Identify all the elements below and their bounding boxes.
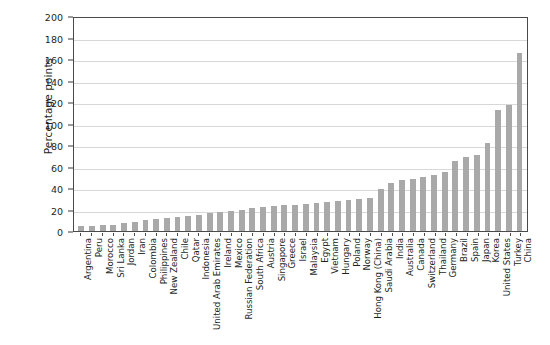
bar[interactable]: [303, 204, 309, 231]
x-tick-slot: Austria: [257, 233, 268, 343]
bar[interactable]: [378, 189, 384, 231]
bar-slot: [450, 18, 461, 231]
bar[interactable]: [217, 212, 223, 231]
bar[interactable]: [324, 202, 330, 231]
x-tick-slot: Malaysia: [300, 233, 311, 343]
bar-slot: [482, 18, 493, 231]
bar-slot: [300, 18, 311, 231]
x-tick-slot: Poland: [343, 233, 354, 343]
bar[interactable]: [506, 105, 512, 231]
bar[interactable]: [228, 211, 234, 231]
x-tick-mark: [370, 233, 371, 236]
bar-slot: [343, 18, 354, 231]
x-tick-mark: [177, 233, 178, 236]
bar-slot: [407, 18, 418, 231]
x-tick-slot: Hong Kong (China): [365, 233, 376, 343]
y-tick-label: 20: [51, 205, 63, 216]
x-tick-mark: [338, 233, 339, 236]
bar-slot: [461, 18, 472, 231]
x-tick-mark: [231, 233, 232, 236]
x-tick-slot: Colombia: [139, 233, 150, 343]
bar[interactable]: [164, 218, 170, 231]
x-tick-slot: Iran: [129, 233, 140, 343]
bar[interactable]: [78, 226, 84, 231]
bar[interactable]: [485, 143, 491, 231]
bar[interactable]: [442, 172, 448, 231]
bar-slot: [119, 18, 130, 231]
bar-slot: [247, 18, 258, 231]
x-tick-slot: Argentina: [75, 233, 86, 343]
bar[interactable]: [463, 157, 469, 231]
x-tick-mark: [198, 233, 199, 236]
bar-slot: [354, 18, 365, 231]
bar[interactable]: [110, 225, 116, 231]
x-tick-mark: [306, 233, 307, 236]
x-tick-mark: [263, 233, 264, 236]
x-tick-mark: [209, 233, 210, 236]
y-tick-label: 0: [57, 227, 63, 238]
bar-slot: [76, 18, 87, 231]
bar[interactable]: [399, 180, 405, 231]
bar[interactable]: [292, 205, 298, 231]
bar[interactable]: [431, 175, 437, 231]
bar[interactable]: [100, 225, 106, 231]
bar[interactable]: [249, 208, 255, 231]
bar[interactable]: [346, 200, 352, 231]
bar[interactable]: [474, 155, 480, 231]
x-tick-mark: [220, 233, 221, 236]
x-tick-slot: United States: [494, 233, 505, 343]
bar[interactable]: [271, 206, 277, 231]
bar[interactable]: [517, 53, 523, 231]
bar[interactable]: [388, 183, 394, 231]
bar-slot: [258, 18, 269, 231]
bar[interactable]: [175, 217, 181, 231]
x-tick-mark: [435, 233, 436, 236]
bar[interactable]: [143, 220, 149, 231]
bar-slot: [418, 18, 429, 231]
bar-slot: [108, 18, 119, 231]
bar-slot: [140, 18, 151, 231]
y-axis-ticks: 020406080100120140160180200: [0, 0, 73, 345]
bar[interactable]: [495, 110, 501, 231]
x-tick-mark: [188, 233, 189, 236]
x-tick-mark: [102, 233, 103, 236]
x-tick-slot: Spain: [461, 233, 472, 343]
y-tick-label: 180: [45, 33, 63, 44]
bar[interactable]: [132, 222, 138, 231]
bar[interactable]: [207, 213, 213, 231]
bar-chart: Percentage points 0204060801001201401601…: [0, 0, 550, 345]
x-tick-slot: Chile: [172, 233, 183, 343]
x-tick-slot: Greece: [279, 233, 290, 343]
x-tick-slot: Qatar: [182, 233, 193, 343]
bar[interactable]: [281, 205, 287, 231]
bar[interactable]: [153, 219, 159, 231]
x-tick-label: China: [525, 238, 534, 263]
bar[interactable]: [260, 207, 266, 231]
x-tick-mark: [510, 233, 511, 236]
x-tick-slot: Russian Federation: [236, 233, 247, 343]
x-tick-slot: Norway: [354, 233, 365, 343]
bar[interactable]: [239, 210, 245, 232]
bar[interactable]: [452, 161, 458, 231]
x-tick-slot: Canada: [408, 233, 419, 343]
y-tick-label: 120: [45, 98, 63, 109]
bar[interactable]: [314, 203, 320, 231]
bar[interactable]: [121, 223, 127, 231]
x-tick-mark: [113, 233, 114, 236]
x-tick-slot: Switzerland: [419, 233, 430, 343]
bar[interactable]: [89, 226, 95, 231]
bar[interactable]: [196, 215, 202, 231]
bar[interactable]: [420, 177, 426, 231]
bar-slot: [183, 18, 194, 231]
bar[interactable]: [367, 198, 373, 231]
x-tick-slot: New Zealand: [161, 233, 172, 343]
x-tick-mark: [402, 233, 403, 236]
bar[interactable]: [410, 179, 416, 231]
y-tick-label: 60: [51, 162, 63, 173]
x-tick-slot: China: [515, 233, 526, 343]
bar[interactable]: [185, 216, 191, 231]
bar[interactable]: [356, 199, 362, 231]
bar-slot: [215, 18, 226, 231]
bar[interactable]: [335, 201, 341, 231]
y-tick-label: 100: [45, 119, 63, 130]
